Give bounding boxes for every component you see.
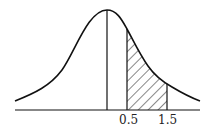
label-1.5: 1.5 bbox=[158, 113, 177, 127]
normal-curve-diagram: 0.5 1.5 bbox=[0, 0, 215, 132]
label-0.5: 0.5 bbox=[119, 113, 138, 127]
curve-graphic bbox=[0, 0, 215, 132]
